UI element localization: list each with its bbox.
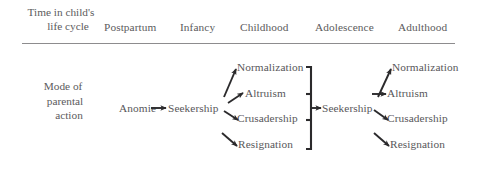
brace-childhood-modes: [306, 67, 321, 149]
arrow-seekership-to-resignation-adulthood: [374, 133, 389, 146]
figure-flow-table: Time in child's life cycle Postpartum In…: [0, 0, 477, 169]
arrow-seekership-to-crusadership-childhood: [224, 111, 238, 120]
arrow-seekership-to-crusadership-adulthood: [374, 110, 388, 120]
arrow-seekership-to-altruism-childhood: [228, 93, 243, 103]
arrow-seekership-to-normalization-adulthood: [378, 69, 391, 97]
connector-layer: [0, 0, 477, 169]
arrow-seekership-to-normalization-childhood: [224, 69, 236, 97]
arrow-seekership-to-resignation-childhood: [222, 133, 237, 146]
